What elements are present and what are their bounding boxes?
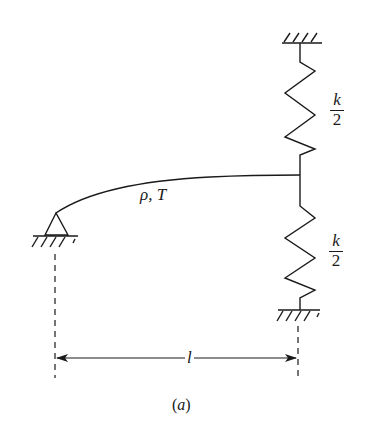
- top-ground-support: [282, 33, 322, 43]
- upper-spring: [285, 43, 315, 175]
- upper-spring-stiffness-label: k 2: [327, 92, 347, 128]
- bottom-ground-support: [277, 310, 320, 321]
- string-curve: [56, 175, 300, 213]
- pin-support: [32, 213, 78, 247]
- lower-spring: [285, 175, 315, 310]
- upper-stiffness-numerator: k: [333, 92, 341, 108]
- figure-caption: (a): [172, 397, 191, 413]
- length-label: l: [185, 349, 194, 366]
- caption-close-paren: ): [185, 396, 190, 413]
- string-spring-diagram: [0, 0, 368, 440]
- string-density-tension-label: ρ, T: [140, 186, 166, 203]
- lower-stiffness-denominator: 2: [332, 253, 341, 269]
- lower-stiffness-numerator: k: [332, 233, 340, 249]
- upper-stiffness-denominator: 2: [333, 112, 342, 128]
- lower-spring-stiffness-label: k 2: [326, 233, 346, 269]
